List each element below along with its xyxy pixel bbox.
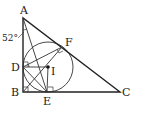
label-c: C <box>122 86 130 99</box>
incenter-point <box>46 65 50 69</box>
label-a: A <box>19 4 29 17</box>
label-e: E <box>43 95 51 108</box>
segment-bf <box>23 47 62 92</box>
label-angle: 52° <box>2 33 18 43</box>
label-d: D <box>11 61 20 74</box>
label-f: F <box>65 36 73 49</box>
segment-ie <box>47 67 48 92</box>
label-i: I <box>51 65 55 78</box>
label-b: B <box>11 86 19 99</box>
segment-df <box>23 47 62 67</box>
geometry-diagram: A 52° F D I B E C <box>0 0 141 116</box>
triangle-abc <box>23 18 120 92</box>
